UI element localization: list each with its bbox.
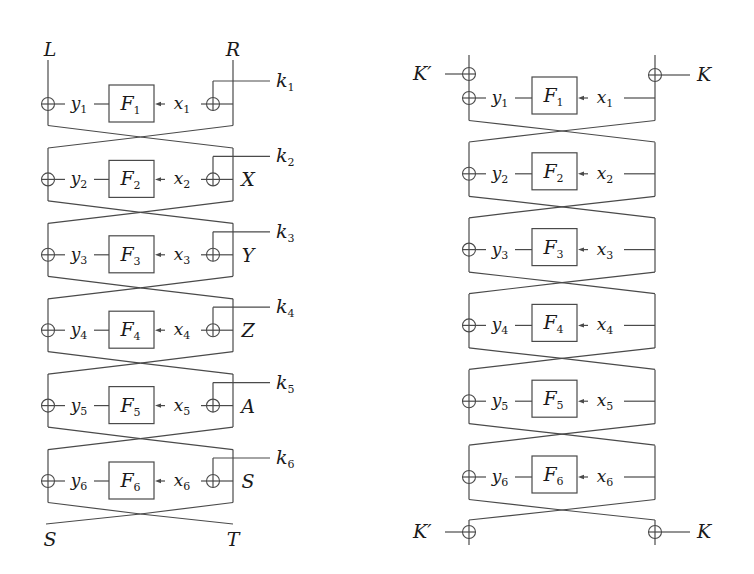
xor-icon	[463, 319, 476, 332]
xor-icon	[463, 167, 476, 180]
input-label-L: L	[43, 38, 57, 60]
xor-icon	[42, 98, 55, 111]
xor-icon	[207, 248, 220, 261]
xor-icon	[463, 395, 476, 408]
key-label-K-bottom: K	[696, 520, 713, 542]
state-label-Z: Z	[240, 319, 255, 341]
xor-icon	[42, 399, 55, 412]
xor-icon	[42, 173, 55, 186]
input-label-R: R	[225, 38, 240, 60]
key-label-K-prime-top: K′	[412, 62, 432, 84]
feistel-diagram: LRF1y1x1k1F2y2x2k2XF3y3x3k3YF4y4x4k4ZF5y…	[0, 0, 754, 574]
xor-icon	[463, 471, 476, 484]
xor-icon	[42, 475, 55, 488]
xor-icon	[207, 98, 220, 111]
xor-icon	[207, 399, 220, 412]
state-label-X: X	[239, 168, 256, 190]
state-label-A: A	[239, 395, 255, 417]
key-label-K-top: K	[696, 63, 713, 85]
xor-icon	[463, 243, 476, 256]
xor-icon	[463, 526, 476, 539]
xor-icon	[42, 248, 55, 261]
key-label-K-prime-bottom: K′	[412, 520, 432, 542]
xor-icon	[463, 68, 476, 81]
xor-icon	[42, 324, 55, 337]
xor-icon	[463, 92, 476, 105]
xor-icon	[649, 69, 662, 82]
xor-icon	[649, 526, 662, 539]
state-label-S: S	[241, 470, 254, 492]
xor-icon	[207, 324, 220, 337]
output-label-S: S	[43, 528, 56, 550]
xor-icon	[207, 173, 220, 186]
xor-icon	[207, 475, 220, 488]
output-label-T: T	[227, 528, 241, 550]
